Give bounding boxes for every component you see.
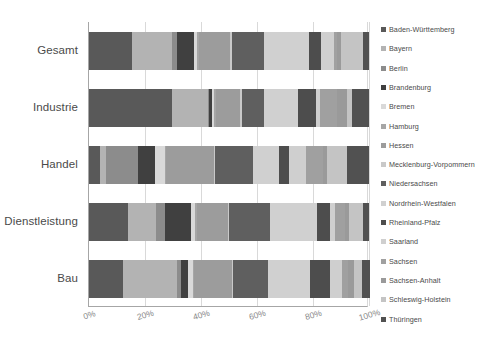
legend-label: Berlin [389, 65, 408, 72]
x-axis-tick-labels: 0%20%40%60%80%100% [88, 310, 369, 330]
legend-swatch-icon [381, 143, 386, 148]
legend-swatch-icon [381, 124, 386, 129]
legend-item[interactable]: Mecklenburg-Vorpommern [381, 161, 475, 168]
legend-item[interactable]: Sachsen-Anhalt [381, 277, 440, 284]
legend-item[interactable]: Baden-Württemberg [381, 26, 455, 33]
legend-swatch-icon [381, 317, 386, 322]
legend-swatch-icon [381, 297, 386, 302]
bar-segment [362, 260, 370, 298]
legend-label: Hamburg [389, 123, 419, 130]
bar-segment [264, 89, 298, 127]
stacked-bar-chart: GesamtIndustrieHandelDienstleistungBau 0… [0, 0, 493, 345]
bar-segment [268, 260, 310, 298]
y-axis-label-dienstleistung: Dienstleistung [4, 216, 78, 228]
legend-item[interactable]: Hamburg [381, 123, 419, 130]
bar-segment [89, 89, 172, 127]
legend-label: Hessen [389, 142, 414, 149]
legend-label: Saarland [389, 238, 418, 245]
legend-swatch-icon [381, 239, 386, 244]
legend-label: Mecklenburg-Vorpommern [389, 161, 475, 168]
legend-item[interactable]: Sachsen [381, 258, 417, 265]
legend-item[interactable]: Berlin [381, 65, 408, 72]
legend-label: Bayern [389, 45, 412, 52]
bar-segment [89, 32, 132, 70]
legend-label: Bremen [389, 103, 414, 110]
bar-segment [132, 32, 171, 70]
legend-item[interactable]: Bayern [381, 45, 412, 52]
bar-segment [242, 89, 264, 127]
bar-segment [330, 260, 343, 298]
legend-label: Niedersachsen [389, 180, 438, 187]
legend-label: Baden-Württemberg [389, 26, 455, 33]
bar-row [89, 203, 367, 241]
bar-segment [89, 146, 100, 184]
bar-segment [320, 89, 337, 127]
x-axis-tick-60pct: 60% [248, 308, 267, 322]
bar-segment [310, 260, 330, 298]
bar-segment [156, 203, 164, 241]
bar-segment [306, 146, 323, 184]
bar-row [89, 260, 367, 298]
bar-segment [194, 260, 232, 298]
legend-swatch-icon [381, 46, 386, 51]
y-axis-label-bau: Bau [57, 273, 78, 285]
legend-item[interactable]: Rheinland-Pfalz [381, 219, 441, 226]
x-axis-tick-80pct: 80% [304, 308, 323, 322]
bar-segment [270, 203, 318, 241]
legend-label: Brandenburg [389, 84, 431, 91]
bar-segment [89, 203, 128, 241]
bar-segment [215, 146, 253, 184]
bar-segment [298, 89, 316, 127]
x-axis-tick-100pct: 100% [358, 307, 382, 323]
bar-row [89, 146, 367, 184]
y-axis-label-handel: Handel [41, 159, 78, 171]
bar-segment [349, 203, 363, 241]
bar-segment [363, 32, 369, 70]
bar-segment [352, 89, 369, 127]
bar-segment [264, 32, 309, 70]
bar-segment [138, 146, 155, 184]
legend-item[interactable]: Thüringen [381, 316, 422, 323]
bar-segment [199, 32, 230, 70]
bar-segment [172, 89, 208, 127]
bar-segment [279, 146, 289, 184]
bar-segment [317, 203, 330, 241]
legend-item[interactable]: Niedersachsen [381, 180, 438, 187]
y-axis-label-gesamt: Gesamt [37, 45, 78, 57]
legend-item[interactable]: Bremen [381, 103, 414, 110]
x-axis-tick-0pct: 0% [82, 308, 97, 321]
bar-segment [106, 146, 138, 184]
legend-swatch-icon [381, 162, 386, 167]
legend-swatch-icon [381, 27, 386, 32]
legend-item[interactable]: Nordrhein-Westfalen [381, 200, 456, 207]
x-axis-tick-20pct: 20% [136, 308, 155, 322]
bar-segment [321, 32, 334, 70]
bar-segment [253, 146, 280, 184]
bar-segment [233, 260, 268, 298]
legend-item[interactable]: Hessen [381, 142, 414, 149]
legend-label: Sachsen [389, 258, 417, 265]
bar-segment [232, 32, 264, 70]
chart-legend: Baden-WürttembergBayernBerlinBrandenburg… [381, 26, 493, 326]
plot-area [88, 22, 368, 307]
legend-swatch-icon [381, 201, 386, 206]
bar-segment [335, 203, 345, 241]
bar-segment [89, 260, 123, 298]
legend-label: Rheinland-Pfalz [389, 219, 441, 226]
bar-segment [155, 146, 165, 184]
legend-label: Sachsen-Anhalt [389, 277, 440, 284]
bar-segment [309, 32, 322, 70]
bar-segment [197, 203, 228, 241]
legend-swatch-icon [381, 278, 386, 283]
bar-segment [337, 89, 347, 127]
legend-swatch-icon [381, 85, 386, 90]
legend-item[interactable]: Brandenburg [381, 84, 431, 91]
legend-item[interactable]: Schleswig-Holstein [381, 296, 451, 303]
legend-swatch-icon [381, 220, 386, 225]
y-axis-label-industrie: Industrie [33, 102, 78, 114]
bar-segment [216, 89, 240, 127]
bar-segment [128, 203, 156, 241]
bar-segment [327, 146, 347, 184]
bar-segment [166, 146, 214, 184]
legend-item[interactable]: Saarland [381, 238, 418, 245]
